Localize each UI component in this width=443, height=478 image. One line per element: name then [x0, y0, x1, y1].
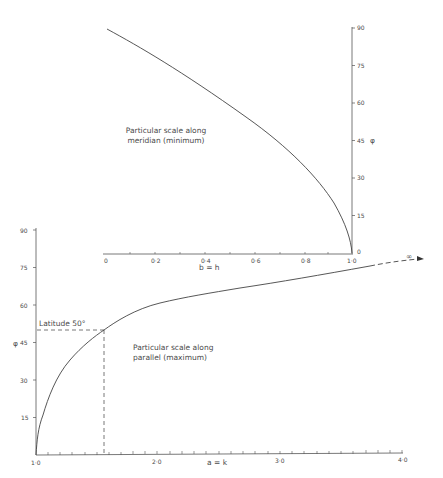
top-y-tick-90: 90 — [357, 24, 365, 31]
bottom-y-label: φ — [13, 339, 18, 348]
bottom-y-tick-60: 60 — [20, 302, 28, 309]
arrowhead-icon — [417, 256, 424, 261]
bottom-y-tick-15: 15 — [21, 414, 29, 421]
top-y-label: φ — [370, 136, 375, 145]
bottom-annotation-line2: parallel (maximum) — [133, 353, 207, 362]
top-x-tick-1-0: 1·0 — [347, 257, 357, 264]
top-x-tick-0: 0 — [104, 257, 108, 264]
bottom-x-axis — [36, 453, 403, 455]
bottom-y-tick-30: 30 — [20, 377, 28, 384]
bottom-y-tick-45: 45 — [20, 339, 28, 346]
chart-canvas: 90 75 60 45 30 15 0 φ 0 0·2 0·4 0·6 0·8 … — [0, 0, 443, 478]
bottom-y-tick-75: 75 — [20, 264, 28, 271]
top-y-tick-60: 60 — [357, 99, 365, 106]
top-y-tick-75: 75 — [357, 62, 365, 69]
top-x-label: b = h — [199, 263, 220, 272]
bottom-x-label: a = k — [207, 458, 228, 467]
top-y-tick-30: 30 — [357, 174, 365, 181]
top-y-tick-45: 45 — [357, 137, 365, 144]
top-y-tick-15: 15 — [357, 212, 365, 219]
latitude-50-label: Latitude 50° — [39, 319, 86, 328]
bottom-annotation-line1: Particular scale along — [133, 343, 214, 352]
top-x-tick-0-8: 0·8 — [301, 257, 311, 264]
bottom-x-tick-1-0: 1·0 — [31, 459, 41, 466]
top-annotation-line2: meridian (minimum) — [127, 136, 204, 145]
bottom-y-tick-90: 90 — [20, 227, 28, 234]
top-annotation-line1: Particular scale along — [126, 126, 207, 135]
top-chart: 90 75 60 45 30 15 0 φ 0 0·2 0·4 0·6 0·8 … — [103, 24, 375, 272]
top-y-tick-0: 0 — [357, 248, 361, 255]
top-x-tick-0-2: 0·2 — [151, 257, 161, 264]
bottom-x-tick-3-0: 3·0 — [275, 457, 285, 464]
top-x-tick-0-6: 0·6 — [251, 257, 261, 264]
infinity-label: ∞ — [406, 252, 412, 261]
bottom-x-tick-2-0: 2·0 — [152, 458, 162, 465]
bottom-x-tick-4-0: 4·0 — [398, 456, 408, 463]
